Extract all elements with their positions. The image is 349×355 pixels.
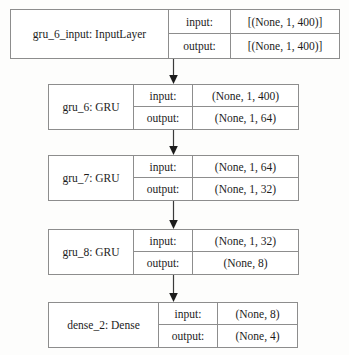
output-shape-value: [(None, 1, 400)] xyxy=(231,34,339,58)
layer-node-gru-7[interactable]: gru_7: GRU input: (None, 1, 64) output: … xyxy=(48,155,299,201)
shape-row-output: output: (None, 4) xyxy=(159,325,297,347)
layer-name-gru-6: gru_6: GRU xyxy=(49,85,134,129)
shape-table-gru-7: input: (None, 1, 64) output: (None, 1, 3… xyxy=(134,156,298,200)
layer-node-dense-2[interactable]: dense_2: Dense input: (None, 8) output: … xyxy=(48,302,298,348)
layer-name-gru-8: gru_8: GRU xyxy=(49,230,134,274)
layer-name-gru-7: gru_7: GRU xyxy=(49,156,134,200)
shape-table-dense-2: input: (None, 8) output: (None, 4) xyxy=(159,303,297,347)
shape-row-input: input: (None, 1, 32) xyxy=(134,230,298,252)
input-label: input: xyxy=(159,303,218,324)
layer-name-dense-2: dense_2: Dense xyxy=(49,303,159,347)
shape-table-gru-6: input: (None, 1, 400) output: (None, 1, … xyxy=(134,85,298,129)
input-label: input: xyxy=(169,10,231,33)
input-label: input: xyxy=(134,230,193,251)
arrow-connector-gru-6-input-to-gru-6 xyxy=(168,59,179,84)
input-shape-value: [(None, 1, 400)] xyxy=(231,10,339,33)
input-label: input: xyxy=(134,156,193,177)
shape-table-gru-6-input: input: [(None, 1, 400)] output: [(None, … xyxy=(169,10,339,58)
shape-row-output: output: (None, 1, 64) xyxy=(134,107,298,129)
layer-name-gru-6-input: gru_6_input: InputLayer xyxy=(11,10,169,58)
output-label: output: xyxy=(169,34,231,58)
shape-row-output: output: (None, 1, 32) xyxy=(134,178,298,200)
layer-node-gru-6-input[interactable]: gru_6_input: InputLayer input: [(None, 1… xyxy=(10,9,340,59)
shape-row-output: output: [(None, 1, 400)] xyxy=(169,34,339,58)
shape-row-input: input: [(None, 1, 400)] xyxy=(169,10,339,34)
input-shape-value: (None, 1, 32) xyxy=(193,230,298,251)
arrow-connector-gru-8-to-dense-2 xyxy=(168,275,179,302)
shape-row-input: input: (None, 8) xyxy=(159,303,297,325)
arrow-connector-gru-6-to-gru-7 xyxy=(168,130,179,155)
layer-node-gru-8[interactable]: gru_8: GRU input: (None, 1, 32) output: … xyxy=(48,229,299,275)
output-shape-value: (None, 1, 64) xyxy=(193,107,298,129)
output-label: output: xyxy=(134,252,193,274)
shape-row-input: input: (None, 1, 400) xyxy=(134,85,298,107)
shape-row-input: input: (None, 1, 64) xyxy=(134,156,298,178)
arrow-connector-gru-7-to-gru-8 xyxy=(168,201,179,229)
output-label: output: xyxy=(159,325,218,347)
output-shape-value: (None, 8) xyxy=(193,252,298,274)
input-label: input: xyxy=(134,85,193,106)
output-label: output: xyxy=(134,107,193,129)
output-shape-value: (None, 4) xyxy=(218,325,297,347)
shape-table-gru-8: input: (None, 1, 32) output: (None, 8) xyxy=(134,230,298,274)
model-graph: gru_6_input: InputLayer input: [(None, 1… xyxy=(0,0,349,355)
input-shape-value: (None, 1, 64) xyxy=(193,156,298,177)
layer-node-gru-6[interactable]: gru_6: GRU input: (None, 1, 400) output:… xyxy=(48,84,299,130)
input-shape-value: (None, 1, 400) xyxy=(193,85,298,106)
shape-row-output: output: (None, 8) xyxy=(134,252,298,274)
output-shape-value: (None, 1, 32) xyxy=(193,178,298,200)
input-shape-value: (None, 8) xyxy=(218,303,297,324)
output-label: output: xyxy=(134,178,193,200)
